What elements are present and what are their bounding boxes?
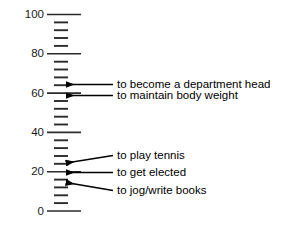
axis-label-20: 20 <box>4 166 44 178</box>
callout-to-get-elected: to get elected <box>117 167 186 179</box>
callout-to-jog-write-books: to jog/write books <box>117 185 207 197</box>
annotation-arrows <box>66 85 113 191</box>
number-line-svg <box>0 0 295 232</box>
arrow-to-jog-write-books <box>66 183 113 191</box>
minor-ticks <box>54 22 68 203</box>
callout-to-maintain-body-weight: to maintain body weight <box>117 90 238 102</box>
arrow-to-play-tennis <box>66 156 113 164</box>
number-line-figure: 100 80 60 40 20 0 to become a department… <box>0 0 295 232</box>
axis-label-80: 80 <box>4 48 44 60</box>
axis-label-100: 100 <box>4 9 44 21</box>
callout-to-play-tennis: to play tennis <box>117 150 185 162</box>
axis-label-40: 40 <box>4 127 44 139</box>
axis-label-0: 0 <box>4 206 44 218</box>
axis-label-60: 60 <box>4 88 44 100</box>
major-ticks <box>47 15 81 212</box>
